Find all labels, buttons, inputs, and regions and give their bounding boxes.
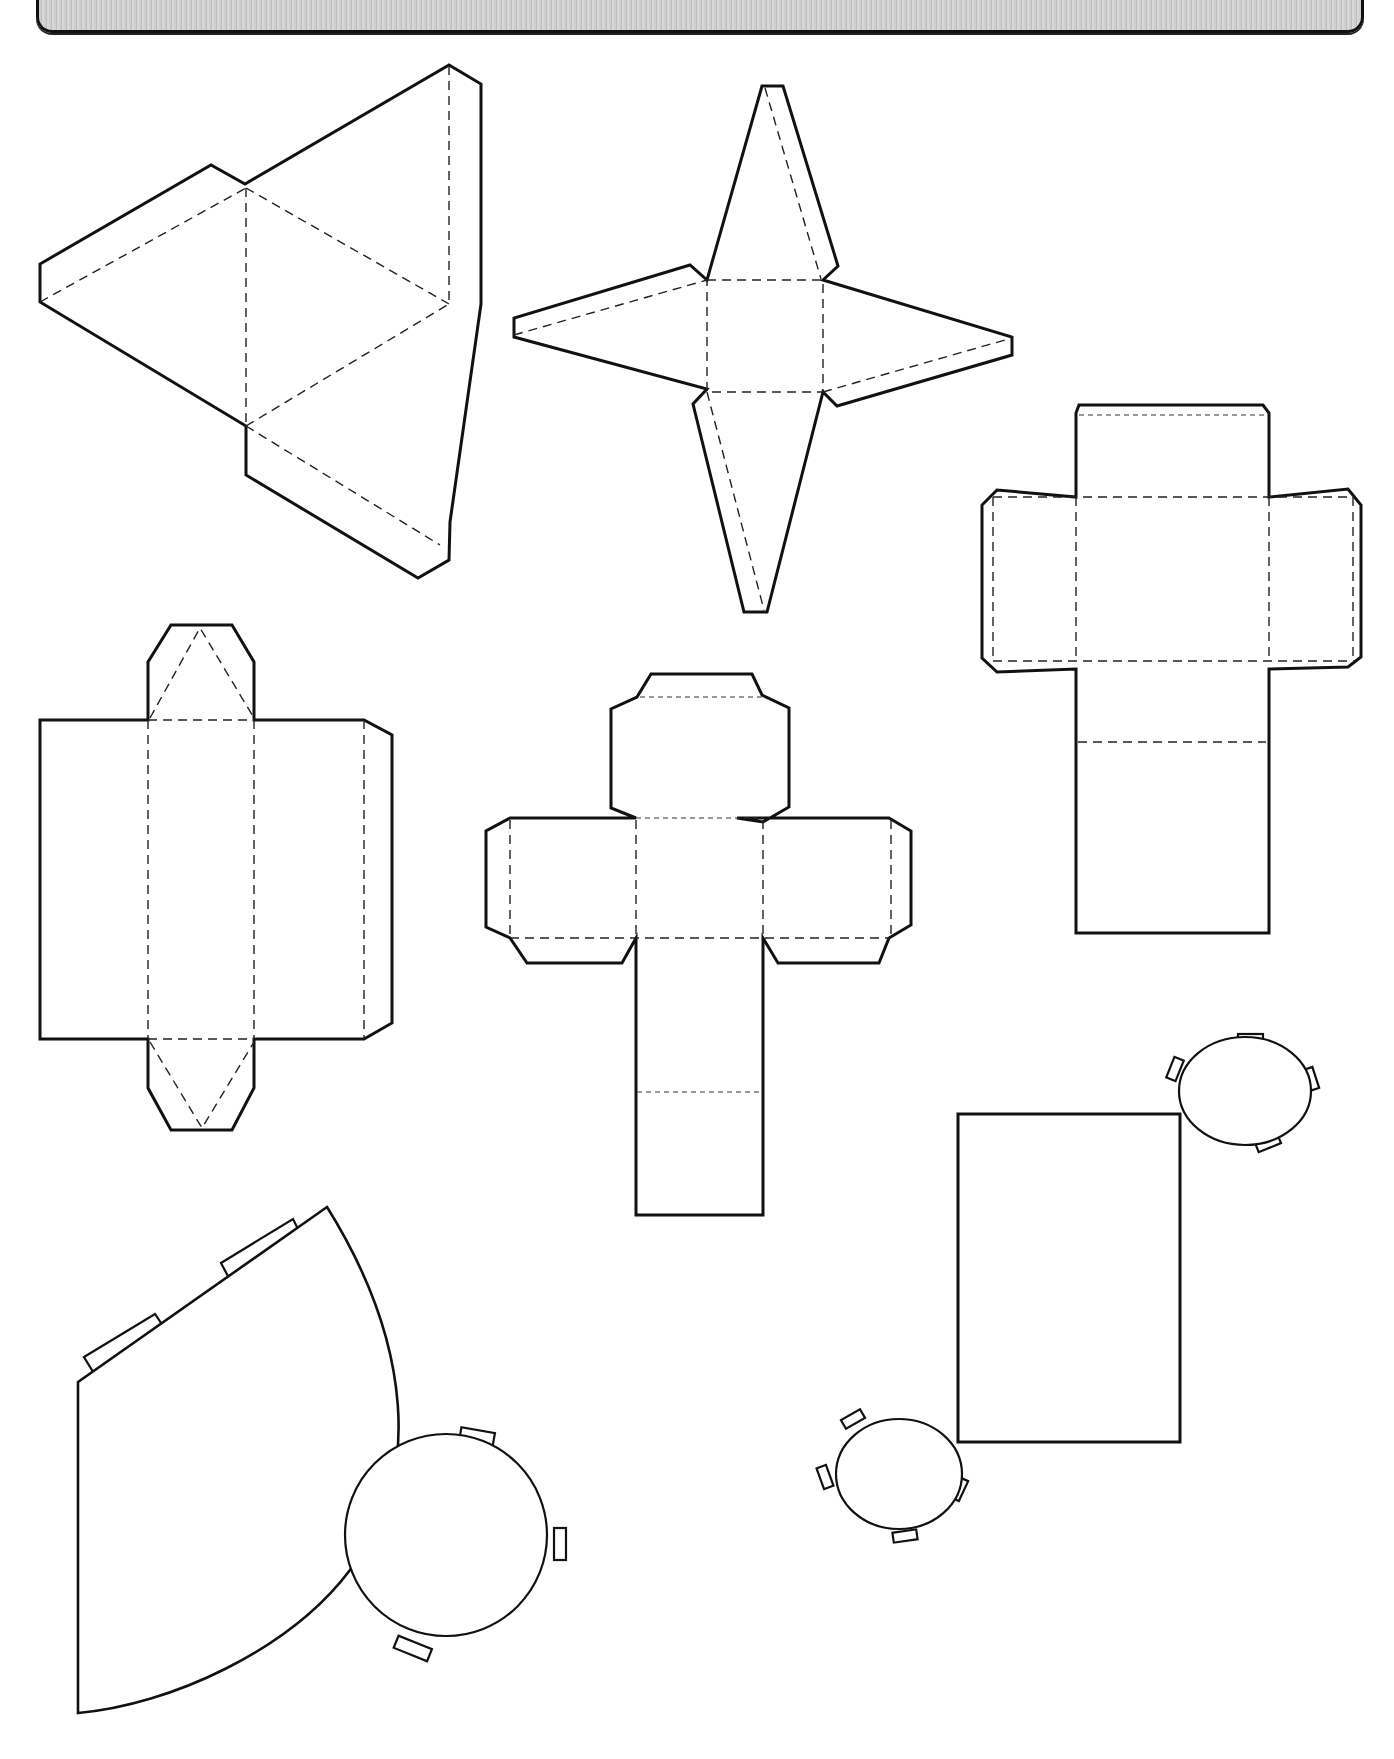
nets-sheet (0, 0, 1394, 1759)
net-triangular-prism (40, 625, 392, 1130)
net-rectangular-prism (982, 405, 1361, 933)
cylinder-top-circle (1166, 1034, 1319, 1152)
cone-base-circle (345, 1427, 566, 1661)
net-square-pyramid (514, 86, 1012, 612)
net-cylinder (817, 1034, 1320, 1543)
net-cone (78, 1207, 566, 1713)
net-triangular-pyramid (40, 65, 481, 578)
cylinder-bottom-circle (817, 1409, 969, 1542)
net-cube (486, 674, 911, 1215)
